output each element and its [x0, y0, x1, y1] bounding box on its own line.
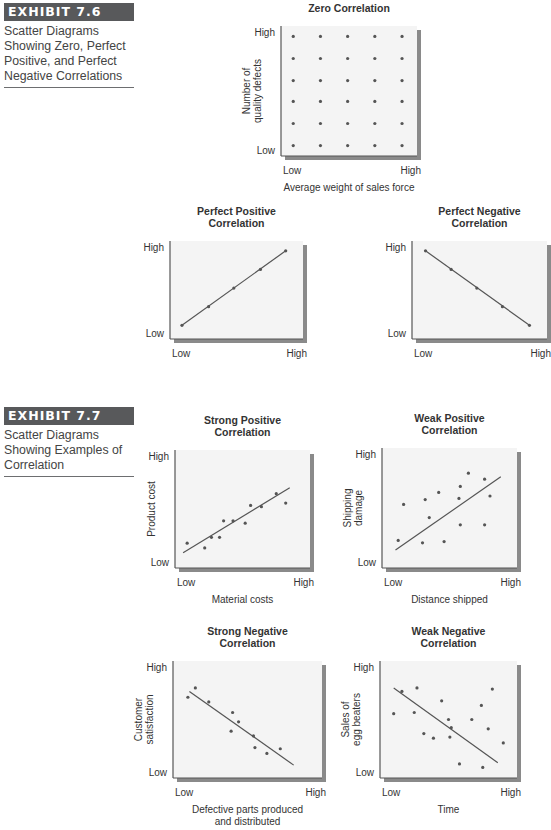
x-tick-high: High	[500, 787, 521, 798]
data-point	[207, 305, 210, 308]
data-point	[467, 472, 470, 475]
y-axis-label: Customer	[133, 697, 144, 741]
data-point	[218, 536, 221, 539]
y-tick-low: Low	[358, 557, 377, 568]
data-point	[487, 727, 490, 730]
data-point	[400, 57, 403, 60]
data-point	[249, 504, 252, 507]
data-point	[483, 478, 486, 481]
chart-title: Correlation	[420, 637, 476, 649]
data-point	[373, 35, 376, 38]
data-point	[450, 726, 453, 729]
data-point	[502, 741, 505, 744]
data-point	[443, 540, 446, 543]
data-point	[447, 718, 450, 721]
chart-perfect-positive: Perfect PositiveCorrelationHighLowLowHig…	[143, 205, 307, 359]
data-point	[424, 249, 427, 252]
x-tick-high: High	[286, 348, 307, 359]
y-axis-label: Sales of	[340, 701, 351, 737]
data-point	[448, 735, 451, 738]
data-point	[428, 516, 431, 519]
chart-title: Weak Negative	[412, 625, 486, 637]
data-point	[252, 734, 255, 737]
y-tick-low: Low	[356, 767, 375, 778]
x-tick-high: High	[530, 348, 551, 359]
data-point	[203, 546, 206, 549]
data-point	[400, 100, 403, 103]
data-point	[400, 144, 403, 147]
data-point	[400, 35, 403, 38]
data-point	[186, 696, 189, 699]
plot-area	[173, 661, 322, 778]
chart-title: Strong Negative	[207, 625, 288, 637]
chart-title: Correlation	[421, 424, 477, 436]
data-point	[259, 268, 262, 271]
x-tick-low: Low	[384, 577, 403, 588]
data-point	[481, 766, 484, 769]
data-point	[319, 35, 322, 38]
data-point	[244, 522, 247, 525]
x-tick-high: High	[293, 577, 314, 588]
y-tick-high: High	[355, 449, 376, 460]
data-point	[424, 498, 427, 501]
data-point	[373, 100, 376, 103]
data-point	[400, 79, 403, 82]
y-axis-label: satisfaction	[144, 694, 155, 744]
data-point	[253, 746, 256, 749]
data-point	[292, 79, 295, 82]
x-tick-low: Low	[283, 165, 302, 176]
data-point	[210, 536, 213, 539]
chart-strong-negative: Strong NegativeCorrelationHighLowLowHigh…	[133, 625, 326, 827]
y-tick-high: High	[385, 242, 406, 253]
data-point	[346, 57, 349, 60]
data-point	[480, 704, 483, 707]
scatter-charts: Zero CorrelationHighLowLowHighAverage we…	[0, 0, 551, 830]
data-point	[292, 122, 295, 125]
x-tick-low: Low	[172, 348, 191, 359]
data-point	[457, 497, 460, 500]
data-point	[292, 100, 295, 103]
plot-area	[175, 450, 310, 568]
chart-title: Correlation	[208, 217, 264, 229]
data-point	[207, 700, 210, 703]
data-point	[483, 523, 486, 526]
x-axis-label: Average weight of sales force	[283, 182, 414, 193]
data-point	[279, 747, 282, 750]
data-point	[459, 485, 462, 488]
chart-title: Correlation	[214, 426, 270, 438]
chart-title: Correlation	[451, 217, 507, 229]
data-point	[373, 122, 376, 125]
x-tick-low: Low	[177, 577, 196, 588]
plot-area	[170, 241, 303, 339]
data-point	[284, 502, 287, 505]
chart-title: Correlation	[219, 637, 275, 649]
data-point	[422, 732, 425, 735]
y-tick-high: High	[353, 662, 374, 673]
data-point	[459, 523, 462, 526]
data-point	[458, 762, 461, 765]
chart-title: Perfect Negative	[438, 205, 520, 217]
data-point	[346, 100, 349, 103]
x-tick-high: High	[400, 165, 421, 176]
data-point	[265, 752, 268, 755]
plot-area	[281, 26, 417, 156]
data-point	[400, 690, 403, 693]
x-tick-low: Low	[175, 787, 194, 798]
data-point	[180, 324, 183, 327]
data-point	[186, 542, 189, 545]
y-tick-low: Low	[149, 767, 168, 778]
chart-perfect-negative: Perfect NegativeCorrelationHighLowLowHig…	[385, 205, 551, 359]
data-point	[491, 687, 494, 690]
data-point	[237, 720, 240, 723]
data-point	[397, 539, 400, 542]
data-point	[346, 144, 349, 147]
x-tick-high: High	[500, 577, 521, 588]
data-point	[413, 711, 416, 714]
data-point	[319, 122, 322, 125]
y-tick-high: High	[148, 451, 169, 462]
data-point	[450, 268, 453, 271]
chart-title: Zero Correlation	[308, 2, 390, 14]
y-axis-label: quality defects	[252, 59, 263, 123]
data-point	[231, 711, 234, 714]
data-point	[292, 144, 295, 147]
